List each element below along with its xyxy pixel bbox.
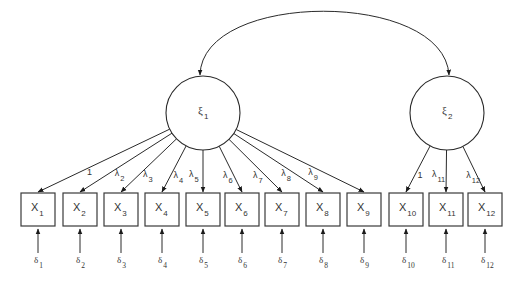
factor-covariance-arrow xyxy=(200,11,449,75)
indicator-x5: X5 xyxy=(186,193,220,226)
loading-label: λ9 xyxy=(308,167,318,182)
measurement-errors: δ1δ2δ3δ4δ5δ6δ7δ8δ9δ10δ11δ12 xyxy=(34,229,494,270)
loading-label: 1 xyxy=(87,167,92,177)
error-label: δ5 xyxy=(199,255,208,270)
loading-label: λ5 xyxy=(189,169,199,184)
indicator-x2: X2 xyxy=(63,193,97,226)
loading-label: λ4 xyxy=(173,170,183,185)
indicator-x7: X7 xyxy=(265,193,299,226)
error-label: δ9 xyxy=(360,255,369,270)
indicator-x11: X11 xyxy=(429,193,463,226)
loading-label: λ11 xyxy=(432,169,445,184)
error-label: δ3 xyxy=(117,255,126,270)
indicator-x8: X8 xyxy=(306,193,340,226)
loading-label: λ2 xyxy=(115,168,125,183)
factor-xi2: ξ2 xyxy=(410,76,484,150)
loading-label: 1 xyxy=(417,170,422,180)
loading-label: λ6 xyxy=(223,170,233,185)
latent-factors: ξ1ξ2 xyxy=(166,76,484,150)
error-label: δ2 xyxy=(76,255,85,270)
error-label: δ1 xyxy=(34,255,43,270)
indicator-x4: X4 xyxy=(145,193,179,226)
loading-label: λ12 xyxy=(466,170,480,185)
factor-loading-arrows: 1λ2λ3λ4λ5λ6λ7λ8λ91λ11λ12 xyxy=(38,129,485,192)
error-label: δ11 xyxy=(442,255,455,270)
indicator-x10: X10 xyxy=(389,193,423,226)
loading-arrow xyxy=(80,133,172,192)
indicator-x3: X3 xyxy=(104,193,138,226)
error-label: δ7 xyxy=(278,255,287,270)
error-label: δ6 xyxy=(238,255,247,270)
factor-xi1: ξ1 xyxy=(166,76,240,150)
covariance-curve xyxy=(200,11,449,75)
error-label: δ12 xyxy=(481,255,494,270)
indicator-x6: X6 xyxy=(225,193,259,226)
indicator-x12: X12 xyxy=(468,193,502,226)
error-label: δ4 xyxy=(158,255,167,270)
loading-arrow xyxy=(236,129,364,192)
error-label: δ10 xyxy=(402,255,415,270)
indicator-x9: X9 xyxy=(347,193,381,226)
cfa-path-diagram: 1λ2λ3λ4λ5λ6λ7λ8λ91λ11λ12 ξ1ξ2 X1X2X3X4X5… xyxy=(0,0,525,286)
loading-arrow xyxy=(446,150,447,192)
loading-arrow xyxy=(406,146,430,192)
error-label: δ8 xyxy=(319,255,328,270)
indicator-x1: X1 xyxy=(21,193,55,226)
loading-arrow xyxy=(234,134,323,192)
loading-label: λ3 xyxy=(143,169,153,184)
observed-indicators: X1X2X3X4X5X6X7X8X9X10X11X12 xyxy=(21,193,502,226)
